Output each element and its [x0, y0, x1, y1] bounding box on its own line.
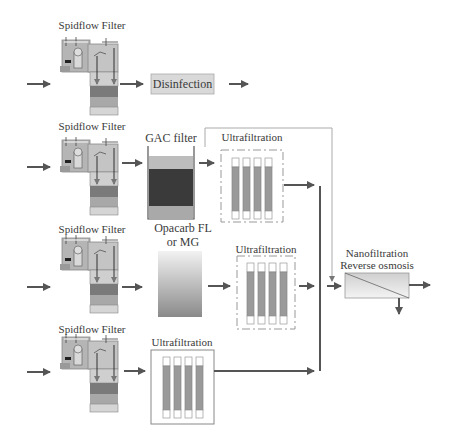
opacarb-label-line2: or MG — [148, 235, 218, 250]
nf-label: Nanofiltration — [340, 247, 414, 259]
row-1 — [27, 37, 248, 115]
opacarb-vessel — [158, 251, 202, 317]
disinfection-label: Disinfection — [151, 77, 214, 92]
ro-label: Reverse osmosis — [335, 259, 419, 271]
row1-filter-label: Spidflow Filter — [52, 19, 132, 31]
gac-filter-label: GAC filter — [141, 131, 201, 146]
row3-uf-label: Ultrafiltration — [231, 243, 301, 255]
nf-ro-module — [345, 273, 409, 298]
uf-frame-4 — [151, 350, 214, 424]
row2-filter-label: Spidflow Filter — [52, 120, 132, 132]
row4-filter-label: Spidflow Filter — [52, 323, 132, 335]
row2-uf-label: Ultrafiltration — [217, 131, 287, 143]
opacarb-label-line1: Opacarb FL — [148, 221, 218, 236]
uf-frame-2 — [221, 150, 283, 222]
gac-filter-vessel — [148, 146, 194, 219]
process-flow-diagram — [0, 0, 454, 444]
row4-uf-label: Ultrafiltration — [147, 336, 217, 348]
row3-filter-label: Spidflow Filter — [52, 223, 132, 235]
row-2 — [27, 137, 314, 222]
